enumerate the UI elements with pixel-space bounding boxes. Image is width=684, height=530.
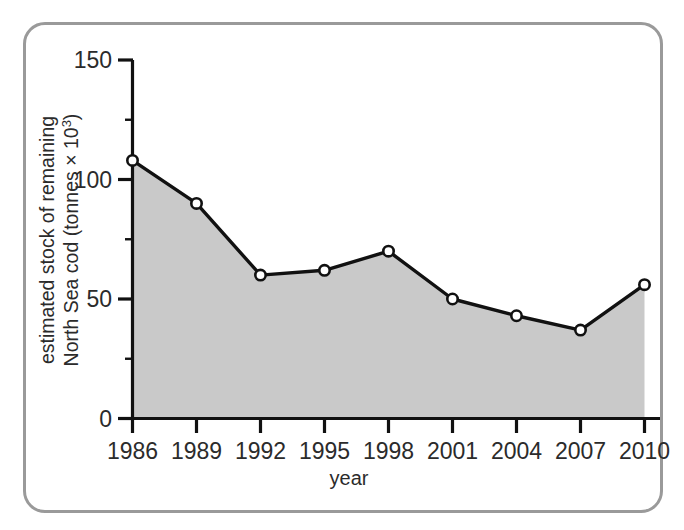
data-point-1986: 1986: 108 [127, 155, 137, 165]
y-axis-title-units-prefix: North Sea cod (tonnes × 10 [60, 127, 82, 366]
data-point-2001: 2001: 50 [447, 294, 457, 304]
y-axis-title-exponent: 3 [59, 120, 74, 127]
x-axis-tick-label-1986: 1986 [107, 438, 158, 464]
data-point-1992: 1992: 60 [255, 270, 265, 280]
chart-plot-stage: 050100150 198619891992199519982001200420… [0, 0, 684, 530]
data-point-2004: 2004: 43 [511, 311, 521, 321]
x-axis-tick-labels: 198619891992199519982001200420072010 [107, 438, 670, 464]
x-axis-tick-label-2010: 2010 [619, 438, 670, 464]
data-point-2007: 2007: 37 [575, 325, 585, 335]
y-axis-title-line-1: estimated stock of remaining [36, 116, 58, 364]
y-axis-tick-label-0: 0 [99, 406, 112, 432]
y-axis-title-line-2: North Sea cod (tonnes × 103) [59, 114, 82, 367]
x-axis-tick-label-1998: 1998 [363, 438, 414, 464]
line-area-chart: 050100150 198619891992199519982001200420… [0, 0, 684, 530]
data-point-2010: 2010: 56 [639, 279, 649, 289]
y-axis-tick-label-150: 150 [74, 47, 112, 73]
y-axis-tick-label-50: 50 [86, 286, 112, 312]
x-axis-ticks [133, 418, 645, 433]
x-axis-tick-label-1995: 1995 [299, 438, 350, 464]
data-point-1998: 1998: 70 [383, 246, 393, 256]
y-axis-title-units-suffix: ) [60, 114, 82, 121]
data-point-1995: 1995: 62 [319, 265, 329, 275]
x-axis-tick-label-2007: 2007 [555, 438, 606, 464]
x-axis-tick-label-2001: 2001 [427, 438, 478, 464]
x-axis-title: year [330, 467, 369, 489]
data-point-1989: 1989: 90 [191, 198, 201, 208]
x-axis-tick-label-1989: 1989 [171, 438, 222, 464]
x-axis-tick-label-1992: 1992 [235, 438, 286, 464]
series-area-fill [133, 160, 645, 418]
figure-page: 050100150 198619891992199519982001200420… [0, 0, 684, 530]
x-axis-tick-label-2004: 2004 [491, 438, 542, 464]
